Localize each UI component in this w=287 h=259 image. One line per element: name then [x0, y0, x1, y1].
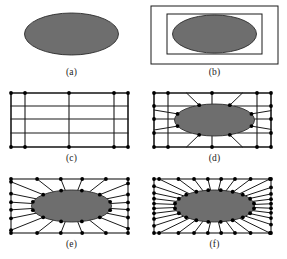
outer-boundary-node — [152, 197, 156, 201]
ellipse-boundary-node — [248, 211, 252, 215]
outer-boundary-node — [35, 231, 39, 235]
radial-mesh-line — [37, 179, 53, 192]
outer-boundary-node — [152, 191, 156, 195]
radial-mesh-line — [253, 199, 271, 201]
grid-corner-node — [152, 104, 156, 108]
grid-corner-node — [210, 145, 214, 149]
ellipse-boundary-node — [184, 193, 188, 197]
ellipse-boundary-node — [241, 193, 245, 197]
ellipse-boundary-node — [31, 208, 35, 212]
corner-node — [269, 177, 273, 181]
ellipse-boundary-node — [173, 207, 177, 211]
outer-boundary-node — [249, 231, 253, 235]
radial-mesh-line — [107, 194, 128, 198]
grid-corner-node — [23, 91, 27, 95]
outer-boundary-node — [9, 192, 13, 196]
outer-boundary-node — [80, 231, 84, 235]
outer-boundary-node — [152, 184, 156, 188]
corner-node — [269, 231, 273, 235]
outer-boundary-node — [152, 206, 156, 210]
radial-mesh-line — [253, 211, 271, 213]
corner-node — [152, 231, 156, 235]
ellipse-boundary-node — [184, 215, 188, 219]
panel-f-caption: (f) — [143, 238, 286, 250]
outer-boundary-node — [152, 217, 156, 221]
panel-b-caption: (b) — [143, 66, 286, 78]
ellipse-boundary-node — [31, 200, 35, 204]
ellipse-boundary-node — [248, 197, 252, 201]
ellipse-boundary-node — [250, 124, 254, 128]
ellipse-boundary-node — [108, 208, 112, 212]
panel-b: (b) — [143, 2, 286, 88]
radial-mesh-line — [159, 218, 189, 233]
ellipse-boundary-node — [206, 220, 210, 224]
ellipse-boundary-node — [98, 215, 102, 219]
panel-f-canvas — [143, 174, 286, 242]
panel-b-canvas — [143, 2, 286, 70]
radial-mesh-line — [107, 213, 128, 217]
grid-corner-node — [269, 145, 273, 149]
grid-corner-node — [269, 117, 273, 121]
ellipse-boundary-node — [231, 190, 235, 194]
panel-c-caption: (c) — [0, 152, 143, 164]
grid-corner-node — [210, 91, 214, 95]
radial-mesh-line — [11, 202, 32, 203]
radial-mesh-line — [250, 194, 271, 199]
outer-boundary-node — [219, 177, 223, 181]
inclusion-ellipse — [173, 15, 257, 53]
grid-corner-node — [152, 91, 156, 95]
grid-corner-node — [255, 145, 259, 149]
radial-mesh-line — [90, 179, 106, 192]
grid-corner-node — [9, 145, 13, 149]
radial-mesh-line — [11, 194, 36, 199]
outer-boundary-node — [249, 177, 253, 181]
radial-mesh-line — [194, 179, 203, 191]
grid-corner-node — [269, 131, 273, 135]
radial-mesh-line — [154, 110, 178, 114]
ellipse-boundary-node — [252, 207, 256, 211]
outer-boundary-node — [9, 200, 13, 204]
radial-mesh-line — [230, 93, 243, 105]
radial-mesh-line — [187, 93, 200, 105]
radial-mesh-line — [100, 217, 128, 228]
outer-boundary-node — [152, 224, 156, 228]
ellipse-boundary-node — [176, 124, 180, 128]
grid-corner-node — [112, 91, 116, 95]
grid-corner-node — [23, 145, 27, 149]
outer-boundary-node — [269, 186, 273, 190]
outer-boundary-node — [192, 177, 196, 181]
radial-mesh-line — [154, 204, 175, 205]
ellipse-boundary-node — [197, 103, 201, 107]
ellipse-boundary-node — [59, 220, 63, 224]
ellipse-boundary-node — [177, 211, 181, 215]
radial-mesh-line — [254, 208, 271, 209]
grid-corner-node — [152, 145, 156, 149]
radial-mesh-line — [154, 199, 176, 202]
corner-node — [152, 177, 156, 181]
radial-mesh-line — [159, 179, 189, 194]
ellipse-boundary-node — [194, 190, 198, 194]
ellipse-boundary-node — [80, 220, 84, 224]
ellipse-boundary-node — [219, 220, 223, 224]
grid-corner-node — [152, 117, 156, 121]
panel-e-canvas — [0, 174, 143, 242]
ellipse-boundary-node — [108, 200, 112, 204]
radial-mesh-line — [37, 220, 53, 233]
outer-boundary-node — [80, 177, 84, 181]
outer-boundary-node — [9, 208, 13, 212]
panel-e: (e) — [0, 174, 143, 259]
grid-corner-node — [166, 91, 170, 95]
radial-mesh-line — [226, 221, 235, 233]
grid-corner-node — [9, 91, 13, 95]
radial-mesh-line — [154, 211, 176, 214]
ellipse-boundary-node — [231, 218, 235, 222]
ellipse-boundary-node — [41, 193, 45, 197]
grid-corner-node — [67, 145, 71, 149]
outer-boundary-node — [59, 177, 63, 181]
radial-mesh-line — [154, 214, 179, 219]
outer-boundary-node — [126, 201, 130, 205]
ellipse-boundary-node — [197, 133, 201, 137]
ellipse-boundary-node — [194, 218, 198, 222]
ellipse-boundary-node — [228, 133, 232, 137]
outer-boundary-node — [126, 227, 130, 231]
